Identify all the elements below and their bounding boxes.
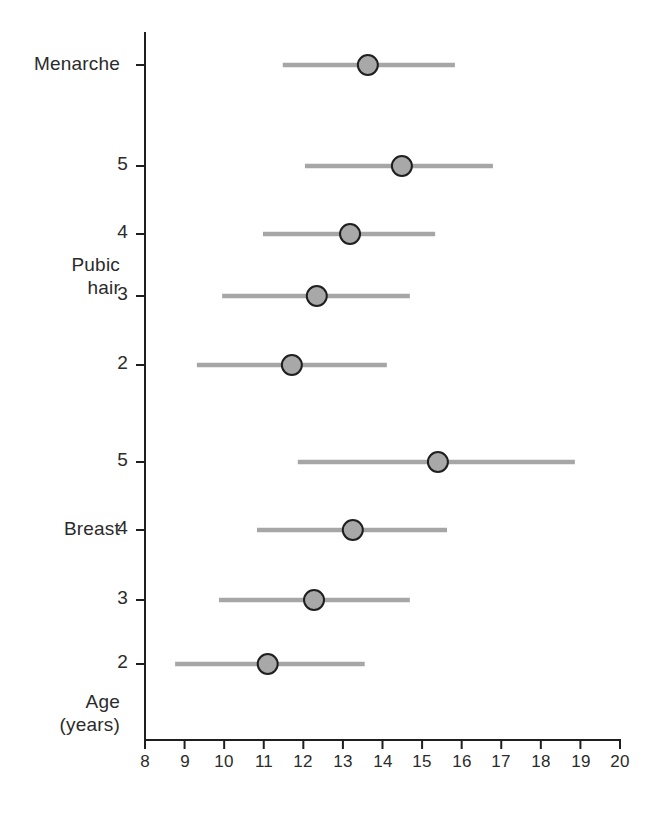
data-point-row [283, 55, 455, 75]
mean-marker [307, 286, 327, 306]
mean-marker [392, 156, 412, 176]
mean-marker [258, 654, 278, 674]
data-point-row [222, 286, 410, 306]
data-point-row [197, 355, 387, 375]
axes-group [136, 32, 621, 749]
mean-marker [343, 520, 363, 540]
data-point-row [305, 156, 493, 176]
mean-marker [304, 590, 324, 610]
mean-marker [358, 55, 378, 75]
data-point-row [257, 520, 447, 540]
data-point-row [175, 654, 365, 674]
data-point-row [219, 590, 410, 610]
plot-area [0, 0, 666, 817]
data-point-row [263, 224, 435, 244]
data-series-group [175, 55, 575, 674]
chart-container: Menarche Pubic hair Breast Age (years) 5… [0, 0, 666, 817]
mean-marker [340, 224, 360, 244]
mean-marker [428, 452, 448, 472]
data-point-row [298, 452, 575, 472]
mean-marker [282, 355, 302, 375]
